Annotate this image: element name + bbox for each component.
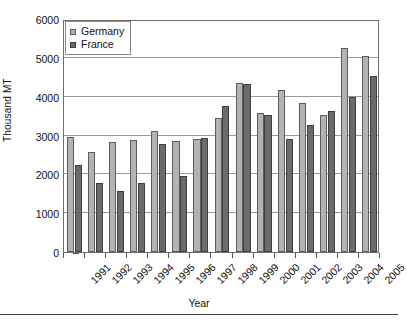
bar-france-2005 <box>370 76 377 252</box>
y-tick-label: 6000 <box>19 14 59 26</box>
y-axis-tick-labels: 0100020003000400050006000 <box>16 0 59 320</box>
bar-germany-1995 <box>151 131 158 252</box>
bar-france-2001 <box>286 139 293 252</box>
bar-france-1994 <box>138 183 145 252</box>
bar-france-1993 <box>117 191 124 252</box>
bar-france-1999 <box>243 84 250 252</box>
bar-france-2003 <box>328 111 335 252</box>
bar-france-2004 <box>349 97 356 252</box>
bar-germany-1992 <box>88 152 95 252</box>
bar-germany-2001 <box>278 90 285 252</box>
legend-label-france: France <box>81 38 114 51</box>
y-tick-label: 1000 <box>19 208 59 220</box>
gridline <box>64 57 378 58</box>
y-axis-title: Thousand MT <box>2 126 13 142</box>
bar-germany-2000 <box>257 113 264 252</box>
bar-germany-1998 <box>215 118 222 252</box>
bottom-divider <box>0 314 398 315</box>
bar-germany-1999 <box>236 83 243 252</box>
y-tick-label: 2000 <box>19 169 59 181</box>
france-swatch-icon <box>70 42 76 48</box>
bar-france-2002 <box>307 125 314 252</box>
x-tick-label-1998: 1998 <box>235 261 260 286</box>
legend-item-france: France <box>70 38 124 51</box>
x-tick-label-2005: 2005 <box>382 261 407 286</box>
x-tick-label-1991: 1991 <box>87 261 112 286</box>
x-tick-label-1992: 1992 <box>108 261 133 286</box>
x-tick-label-1994: 1994 <box>151 261 176 286</box>
x-tick-label-1997: 1997 <box>214 261 239 286</box>
x-tick-label-2000: 2000 <box>277 261 302 286</box>
germany-swatch-icon <box>70 29 76 35</box>
bar-france-1992 <box>96 183 103 253</box>
bar-france-2000 <box>264 115 271 252</box>
legend-label-germany: Germany <box>81 25 124 38</box>
bar-germany-1991 <box>67 137 74 252</box>
bar-germany-1993 <box>109 142 116 252</box>
x-tick-label-1995: 1995 <box>172 261 197 286</box>
bar-france-1991 <box>75 165 82 252</box>
bar-france-1998 <box>222 106 229 252</box>
bar-germany-2005 <box>362 56 369 252</box>
y-tick-label: 3000 <box>19 131 59 143</box>
y-tick-label: 0 <box>19 247 59 259</box>
x-axis-tick-labels: 1991199219931994199519961997199819992000… <box>63 258 393 298</box>
chart-legend: Germany France <box>65 21 131 55</box>
bar-germany-2002 <box>299 103 306 253</box>
bar-germany-2004 <box>341 48 348 252</box>
bar-france-1995 <box>159 144 166 252</box>
x-tick-label-1996: 1996 <box>193 261 218 286</box>
x-tick-label-2003: 2003 <box>340 261 365 286</box>
x-axis-title: Year <box>0 297 398 309</box>
x-tick-label-2001: 2001 <box>298 261 323 286</box>
legend-item-germany: Germany <box>70 25 124 38</box>
x-tick-label-1993: 1993 <box>129 261 154 286</box>
bar-france-1997 <box>201 138 208 252</box>
x-tick-label-2004: 2004 <box>361 261 386 286</box>
bar-france-1996 <box>180 176 187 252</box>
y-tick-label: 4000 <box>19 92 59 104</box>
bar-germany-1996 <box>172 141 179 252</box>
bar-germany-2003 <box>320 115 327 252</box>
y-axis-title-label: Thousand MT <box>2 126 13 142</box>
bar-germany-1994 <box>130 140 137 252</box>
y-tick-label: 5000 <box>19 53 59 65</box>
gridline <box>64 96 378 97</box>
bar-germany-1997 <box>193 139 200 252</box>
x-tick-label-2002: 2002 <box>319 261 344 286</box>
x-tick-label-1999: 1999 <box>256 261 281 286</box>
